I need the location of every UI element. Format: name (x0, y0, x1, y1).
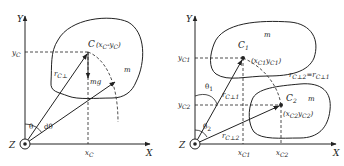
right-yc1-label: yC1 (177, 54, 190, 63)
left-y-axis-label: Y (17, 14, 24, 24)
left-theta-label: θ (29, 123, 33, 131)
right-r2-label: rC⊥2 (222, 132, 240, 141)
left-xc-label: xC (85, 149, 94, 158)
right-yc2-label: yC2 (177, 101, 191, 110)
diagram-canvas: Y X Z yC xC C(xC-yC) rC⊥ mg m θ dθ (0, 0, 344, 166)
left-center-label: C(xC-yC) (88, 39, 121, 50)
right-origin-label: Z (178, 140, 186, 150)
left-radius2-arrow (25, 82, 115, 144)
right-diagram: Y X Z yC1 yC2 xC1 xC2 C1 (xC1yC1) C2 (xC… (177, 14, 340, 158)
right-theta2-label: θ2 (203, 123, 211, 132)
right-c1-point (241, 56, 245, 60)
right-c1-coords: (xC1yC1) (251, 57, 282, 66)
left-origin-dot (23, 142, 27, 146)
right-c2-point (279, 103, 283, 107)
left-radius-label: rC⊥ (54, 70, 68, 79)
left-x-axis-label: X (145, 148, 153, 158)
right-xc2-label: xC2 (276, 149, 289, 158)
right-c2-coords: (xC2yC2) (283, 110, 314, 119)
left-yc-label: yC (11, 49, 21, 58)
right-c1-label: C1 (238, 40, 249, 51)
right-equality-label: rC⊥2=rC⊥1 (289, 71, 330, 80)
right-body2-outline (249, 84, 330, 138)
right-theta1-label: θ1 (205, 83, 213, 92)
right-xc1-label: xC1 (238, 149, 250, 158)
left-origin-label: Z (8, 140, 16, 150)
right-r1-label: rC⊥1 (222, 91, 239, 100)
left-dtheta-label: dθ (44, 123, 53, 131)
left-dtheta-arc (36, 127, 42, 133)
left-radius-arrow (25, 54, 87, 144)
right-mass1-label: m (264, 31, 271, 39)
right-mass2-label: m (308, 95, 315, 103)
left-weight-label: mg (90, 78, 102, 86)
left-diagram: Y X Z yC xC C(xC-yC) rC⊥ mg m θ dθ (8, 14, 153, 158)
left-mass-label: m (124, 66, 131, 74)
right-theta1-arc (195, 94, 217, 104)
left-arc-dashed (88, 52, 118, 122)
right-origin-dot (193, 142, 197, 146)
right-body1-outline (211, 21, 316, 78)
right-y-axis-label: Y (186, 14, 193, 24)
right-c2-label: C2 (286, 93, 297, 104)
right-x-axis-label: X (332, 148, 340, 158)
